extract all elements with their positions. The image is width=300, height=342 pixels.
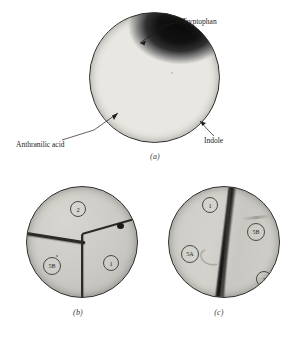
sector-tag-1: 1	[202, 197, 218, 213]
growth-boundary-lower	[81, 234, 83, 298]
sector-tag-1: 1	[103, 255, 119, 271]
label-anthranilic-acid: Anthranilic acid	[16, 140, 65, 149]
panel-b: 2 5B 1 (b)	[18, 186, 138, 336]
sector-tag-2: 2	[256, 271, 272, 287]
sector-tag-2: 2	[70, 201, 86, 217]
label-indole: Indole	[204, 136, 223, 145]
caption-panel-b: (b)	[18, 308, 138, 317]
caption-panel-a: (a)	[78, 152, 232, 161]
petri-dish-c: 1 5B 5A 2	[168, 186, 280, 298]
figure-plate: L-Tryptophan Anthranilic acid Indole (a)…	[0, 0, 300, 342]
growth-boundary-left	[27, 232, 86, 244]
sector-tag-5a: 5A	[181, 245, 199, 263]
sector-tag-5b: 5B	[43, 257, 61, 275]
agar-streak	[242, 214, 271, 220]
panel-c: 1 5B 5A 2 (c)	[158, 186, 280, 336]
caption-panel-c: (c)	[158, 308, 280, 317]
agar-speck	[56, 255, 58, 257]
dark-colony-blob	[117, 223, 124, 229]
petri-dish-b: 2 5B 1	[26, 186, 138, 298]
growth-boundary-right	[82, 219, 133, 236]
panel-a: L-Tryptophan Anthranilic acid Indole (a)	[78, 12, 232, 177]
sector-tag-5b: 5B	[247, 223, 265, 241]
